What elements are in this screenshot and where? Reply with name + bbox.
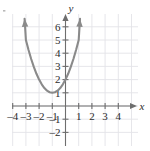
y-tick-label: 2 [55,73,61,85]
x-tick-label: –2 [33,110,45,122]
corner-speck [3,10,5,12]
x-tick-label: –3 [19,110,32,122]
y-axis-label: y [68,2,74,14]
y-tick-label: 6 [55,21,61,33]
chart-background [0,0,150,151]
x-axis-label: x [139,100,145,112]
y-tick-label: 3 [55,60,61,72]
graph-figure: –4–3–2–11234654321–1–2 x y [0,0,150,151]
x-tick-label: 2 [89,110,95,122]
x-tick-label: 1 [76,110,82,122]
x-tick-label: 3 [102,110,108,122]
y-tick-label: –2 [49,126,61,138]
y-tick-label: –1 [49,113,61,125]
y-tick-label: 4 [55,47,61,59]
x-tick-label: –4 [6,110,19,122]
y-tick-label: 5 [55,34,61,46]
x-tick-label: 4 [116,110,122,122]
coordinate-plane-chart: –4–3–2–11234654321–1–2 x y [0,0,150,151]
